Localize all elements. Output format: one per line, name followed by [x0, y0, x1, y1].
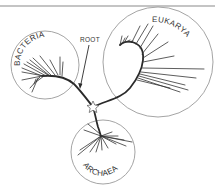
- bacteria-label: BACTERIA: [13, 30, 46, 66]
- root-label: ROOT: [80, 36, 100, 43]
- tree-of-life-diagram: ROOT BACTERIA EUKARYA ARCHAEA: [0, 0, 215, 190]
- eukarya-branches: [120, 24, 204, 92]
- root-arrow: [78, 45, 89, 89]
- eukarya-label: EUKARYA: [152, 15, 192, 39]
- archaea-label: ARCHAEA: [81, 161, 120, 178]
- bacteria-branches: [22, 56, 63, 92]
- archaea-branches: [78, 124, 132, 155]
